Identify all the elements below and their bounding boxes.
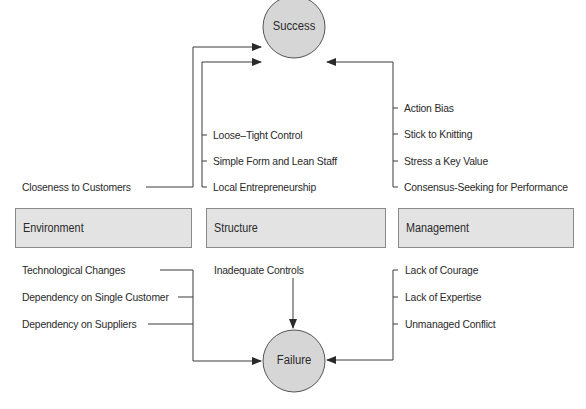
category-box-structure: Structure	[206, 208, 386, 248]
management-failure-connector	[327, 270, 398, 360]
failure-factor-structure: Inadequate Controls	[214, 263, 304, 277]
success-factor-structure: Loose–Tight Control	[213, 128, 302, 142]
failure-label: Failure	[266, 353, 322, 367]
success-label: Success	[266, 19, 322, 33]
structure-success-connector	[202, 62, 261, 187]
failure-factor-environment: Dependency on Single Customer	[22, 290, 169, 304]
success-factor-management: Action Bias	[404, 101, 454, 115]
failure-factor-environment: Dependency on Suppliers	[22, 317, 136, 331]
category-label-structure: Structure	[214, 221, 258, 235]
success-factor-management: Stress a Key Value	[404, 154, 488, 168]
success-factor-structure: Simple Form and Lean Staff	[213, 154, 337, 168]
success-factor-management: Consensus-Seeking for Performance	[404, 180, 568, 194]
diagram-canvas: Success Failure Environment Structure Ma…	[0, 0, 586, 409]
failure-factor-management: Lack of Expertise	[405, 290, 481, 304]
management-success-connector	[327, 62, 393, 187]
success-factor-structure: Local Entrepreneurship	[213, 180, 316, 194]
success-factor-environment: Closeness to Customers	[22, 180, 131, 194]
failure-factor-environment: Technological Changes	[22, 263, 125, 277]
category-box-environment: Environment	[15, 208, 192, 248]
category-label-management: Management	[406, 221, 469, 235]
failure-factor-management: Lack of Courage	[405, 263, 478, 277]
success-factor-management: Stick to Knitting	[404, 127, 472, 141]
connector-layer	[0, 0, 586, 409]
category-box-management: Management	[398, 208, 574, 248]
category-label-environment: Environment	[23, 221, 84, 235]
environment-failure-connector	[160, 270, 261, 361]
failure-factor-management: Unmanaged Conflict	[405, 317, 496, 331]
